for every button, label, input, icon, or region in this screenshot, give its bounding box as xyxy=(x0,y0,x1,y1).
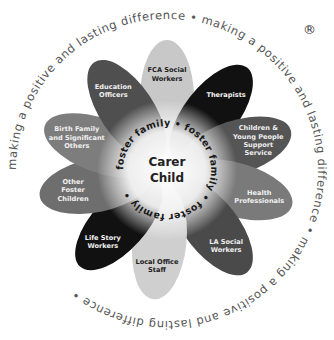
petal-label: FCA SocialWorkers xyxy=(148,66,187,82)
registered-mark: ® xyxy=(303,22,316,37)
petal-label: Life StoryWorkers xyxy=(85,234,122,250)
petal-label: EducationOfficers xyxy=(95,83,132,99)
center-carer: Carer xyxy=(149,155,186,169)
petal-label: LA SocialWorkers xyxy=(209,238,243,254)
center-child: Child xyxy=(150,171,184,185)
petal-label: Therapists xyxy=(206,91,245,99)
support-network-diagram: FCA SocialWorkersTherapistsChildren &You… xyxy=(0,0,334,340)
